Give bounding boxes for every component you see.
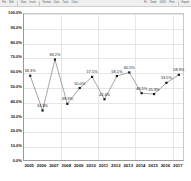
data-point-label: 53.5%	[161, 76, 172, 80]
data-point-marker[interactable]	[141, 92, 143, 94]
toolbar-divider	[178, 1, 179, 6]
x-axis-labels: 2005200620072008200920102011201220132014…	[23, 163, 184, 175]
toolbar-item-3[interactable]: Insert	[29, 2, 36, 5]
y-axis-tick-label: 20.0%	[10, 129, 22, 133]
data-point-label: 39.3%	[62, 97, 73, 101]
x-axis-tick-label: 2014	[136, 164, 146, 168]
data-point-marker[interactable]	[128, 71, 130, 73]
application-toolbar[interactable]: File Edit View Insert Format Data Tools …	[0, 0, 191, 7]
y-axis-tick-label: 30.0%	[10, 114, 22, 118]
data-point-label: 50.0%	[74, 82, 85, 86]
data-point-marker[interactable]	[29, 75, 31, 77]
data-point-label: 58.3%	[25, 69, 36, 73]
x-axis-tick-label: 2006	[37, 164, 47, 168]
chart-window: File Edit View Insert Format Data Tools …	[0, 0, 191, 181]
toolbar-item-4[interactable]: Format	[43, 2, 51, 5]
plot-area: 58.3%34.8%69.2%39.3%50.0%57.5%42.4%58.1%…	[23, 13, 184, 161]
x-axis-tick-label: 2015	[148, 164, 158, 168]
x-axis-tick-label: 2012	[111, 164, 121, 168]
line-series	[24, 14, 185, 162]
data-point-marker[interactable]	[41, 109, 43, 111]
y-axis-tick-label: 50.0%	[10, 85, 22, 89]
toolbar-item-5[interactable]: Data	[54, 2, 59, 5]
data-point-marker[interactable]	[54, 58, 56, 60]
data-point-marker[interactable]	[79, 87, 81, 89]
data-point-label: 60.5%	[124, 66, 135, 70]
x-axis-tick-label: 2017	[173, 164, 183, 168]
y-axis-labels: 0.0%10.0%20.0%30.0%40.0%50.0%60.0%70.0%8…	[0, 13, 23, 161]
data-point-marker[interactable]	[66, 103, 68, 105]
data-point-marker[interactable]	[103, 98, 105, 100]
data-point-label: 46.5%	[136, 87, 147, 91]
toolbar-right-item-0[interactable]: Fit	[144, 2, 147, 5]
series-line	[30, 60, 179, 111]
toolbar-right-item-3[interactable]: Print	[169, 2, 174, 5]
toolbar-right-item-1[interactable]: Zoom	[150, 2, 157, 5]
data-point-label: 42.4%	[99, 93, 110, 97]
toolbar-item-0[interactable]: File	[2, 2, 6, 5]
x-axis-tick-label: 2007	[49, 164, 59, 168]
y-axis-tick-label: 80.0%	[10, 40, 22, 44]
toolbar-divider	[39, 1, 40, 6]
data-point-label: 45.9%	[149, 88, 160, 92]
data-point-marker[interactable]	[91, 76, 93, 78]
x-axis-tick-label: 2011	[99, 164, 108, 168]
toolbar-item-2[interactable]: View	[21, 2, 27, 5]
data-point-marker[interactable]	[116, 75, 118, 77]
x-axis-tick-label: 2008	[62, 164, 72, 168]
data-point-label: 57.5%	[87, 70, 98, 74]
toolbar-right-item-4[interactable]: Export	[182, 2, 190, 5]
toolbar-right-item-2[interactable]: 100%	[160, 2, 167, 5]
x-axis-tick-label: 2016	[161, 164, 171, 168]
data-point-marker[interactable]	[178, 74, 180, 76]
y-axis-tick-label: 0.0%	[13, 159, 22, 163]
y-axis-tick-label: 90.0%	[10, 26, 22, 30]
y-axis-tick-label: 100.0%	[8, 11, 22, 15]
x-axis-tick-label: 2009	[74, 164, 84, 168]
x-axis-tick-label: 2005	[24, 164, 34, 168]
toolbar-item-7[interactable]: Chart	[72, 2, 78, 5]
x-axis-tick-label: 2010	[86, 164, 96, 168]
toolbar-item-6[interactable]: Tools	[62, 2, 68, 5]
toolbar-divider	[17, 1, 18, 6]
y-axis-tick-label: 40.0%	[10, 100, 22, 104]
toolbar-item-1[interactable]: Edit	[9, 2, 13, 5]
y-axis-tick-label: 60.0%	[10, 70, 22, 74]
data-point-label: 58.1%	[111, 70, 122, 74]
data-point-label: 34.8%	[37, 104, 48, 108]
data-point-marker[interactable]	[153, 93, 155, 95]
y-axis-tick-label: 10.0%	[10, 144, 22, 148]
data-point-label: 58.9%	[173, 68, 184, 72]
x-axis-tick-label: 2013	[123, 164, 133, 168]
data-point-label: 69.2%	[49, 53, 60, 57]
data-point-marker[interactable]	[165, 82, 167, 84]
y-axis-tick-label: 70.0%	[10, 55, 22, 59]
